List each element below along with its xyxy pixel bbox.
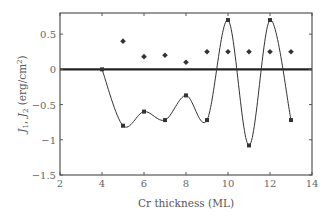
j1-point bbox=[226, 18, 230, 22]
j2-point bbox=[225, 49, 231, 55]
j1-point bbox=[205, 118, 209, 122]
x-tick-label: 2 bbox=[57, 178, 63, 189]
j1-point bbox=[289, 118, 293, 122]
j1-line bbox=[102, 20, 291, 146]
j1-point bbox=[268, 18, 272, 22]
x-tick-label: 8 bbox=[183, 178, 189, 189]
j2-point bbox=[246, 49, 252, 55]
chart: 2468101214 0.50−0.5−1−1.5 Cr thickness (… bbox=[0, 0, 329, 218]
y-tick-label: −0.5 bbox=[32, 100, 56, 111]
y-tick-label: 0.5 bbox=[40, 29, 56, 40]
x-tick-label: 14 bbox=[306, 178, 319, 189]
j2-point bbox=[288, 49, 294, 55]
series-j1-markers bbox=[100, 18, 293, 147]
j2-point bbox=[267, 49, 273, 55]
x-axis-title: Cr thickness (ML) bbox=[138, 197, 234, 209]
j2-point bbox=[162, 52, 168, 58]
y-tick-label: −1.5 bbox=[32, 170, 56, 181]
x-tick-label: 12 bbox=[264, 178, 277, 189]
y-axis-title: J1, J2 (erg/cm2) bbox=[16, 55, 30, 134]
j1-point bbox=[100, 67, 104, 71]
j2-point bbox=[141, 54, 147, 60]
j2-point bbox=[204, 49, 210, 55]
series-j1-curve bbox=[102, 20, 291, 146]
j1-point bbox=[163, 118, 167, 122]
x-tick-label: 6 bbox=[141, 178, 147, 189]
j1-point bbox=[142, 110, 146, 114]
j2-point bbox=[183, 60, 189, 66]
x-tick-label: 10 bbox=[222, 178, 235, 189]
j2-point bbox=[120, 38, 126, 44]
y-tick-label: −1 bbox=[41, 135, 56, 146]
j1-point bbox=[121, 124, 125, 128]
j1-point bbox=[184, 93, 188, 97]
x-tick-label: 4 bbox=[99, 178, 105, 189]
y-tick-label: 0 bbox=[50, 64, 56, 75]
x-axis-ticks: 2468101214 bbox=[57, 13, 319, 189]
series-j2-markers bbox=[120, 38, 294, 65]
j1-point bbox=[247, 143, 251, 147]
